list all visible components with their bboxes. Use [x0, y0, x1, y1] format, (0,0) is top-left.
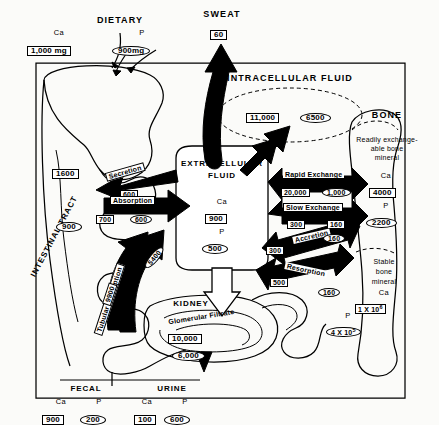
fecal-ca-value: 900 — [42, 415, 64, 425]
urine-ca-value: 100 — [134, 415, 156, 425]
readily-exchangeable-line1: Readily exchange- — [348, 136, 426, 144]
stable-ca-exponent: 6 — [379, 304, 382, 310]
dietary-ca-value: 1,000 mg — [27, 46, 71, 56]
intestinal-ca-value: 1600 — [52, 169, 79, 179]
accretion-ca-value: 300 — [266, 246, 284, 255]
dietary-ca-label: Ca — [44, 29, 74, 37]
kidney-ca-value: 10,000 — [168, 334, 202, 344]
ecf-ca-value: 900 — [205, 214, 227, 224]
slow-exchange-label: Slow Exchange — [283, 203, 343, 212]
readily-exchangeable-line2: able bone — [348, 145, 426, 153]
sweat-ca-value: 60 — [210, 30, 227, 40]
stable-p-exponent: 5 — [352, 327, 355, 333]
stable-bone-line1: Stable — [352, 258, 416, 266]
icf-p-value: 6500 — [300, 113, 331, 123]
reb-p-label: P — [360, 202, 412, 210]
accretion-p-value: 160 — [323, 234, 345, 243]
rapid-exchange-label: Rapid Exchange — [283, 171, 344, 178]
bone-divider — [356, 248, 396, 254]
slow-exchange-ca-value: 300 — [287, 220, 305, 229]
fecal-p-label: P — [88, 398, 110, 406]
icf-ca-value: 11,000 — [246, 113, 279, 123]
stable-p-label: P — [328, 312, 368, 320]
kidney-p-value: 6,000 — [172, 351, 205, 361]
urine-p-value: 600 — [164, 415, 190, 425]
ecf-p-label: P — [196, 228, 248, 236]
fecal-ca-label: Ca — [48, 398, 74, 406]
stable-ca-label: Ca — [352, 289, 416, 297]
reb-ca-label: Ca — [360, 172, 412, 180]
fecal-p-value: 200 — [80, 415, 106, 425]
ecf-p-value: 500 — [202, 244, 228, 254]
absorption-label: Absorption — [110, 196, 155, 205]
reb-p-value: 2200 — [366, 218, 397, 228]
rapid-exchange-ca-value: 20,000 — [281, 188, 310, 197]
dietary-label: DIETARY — [76, 16, 164, 25]
sweat-label: SWEAT — [186, 10, 258, 19]
rapid-exchange-p-value: 1,000 — [322, 188, 351, 197]
reb-ca-value: 4000 — [369, 188, 396, 198]
nephron-tubule — [252, 293, 326, 359]
absorption-ca-value: 700 — [96, 215, 114, 224]
dietary-arrowhead-1 — [113, 70, 121, 76]
bone-label: BONE — [360, 111, 414, 120]
urine-p-label: P — [174, 398, 196, 406]
urine-label: URINE — [140, 385, 204, 393]
ecf-ca-label: Ca — [196, 198, 248, 206]
resorption-p-value: 160 — [318, 288, 340, 297]
ecf-label-line1: EXTRACELLULAR — [180, 160, 264, 168]
dietary-p-label: P — [130, 29, 154, 37]
absorption-p-value: 600 — [130, 215, 152, 224]
fecal-label: FECAL — [54, 385, 118, 393]
kidney-label: KIDNEY — [160, 300, 222, 308]
dietary-p-value: 900mg — [112, 46, 150, 56]
ecf-label-line2: FLUID — [180, 172, 264, 180]
diagram-canvas: .ln{fill:none;stroke:#000;stroke-width:1… — [0, 0, 439, 425]
stable-p-value: 4 X 105 — [326, 327, 361, 337]
stable-bone-line3: mineral — [352, 278, 416, 286]
urine-ca-label: Ca — [134, 398, 160, 406]
stable-bone-line2: bone — [352, 268, 416, 276]
intracellular-fluid-blob — [218, 88, 362, 142]
resorption-ca-value: 500 — [270, 278, 288, 287]
intracellular-fluid-label: INTRACELLULAR FLUID — [210, 74, 370, 83]
intestinal-p-value: 900 — [56, 222, 82, 232]
readily-exchangeable-line3: mineral — [348, 154, 426, 162]
